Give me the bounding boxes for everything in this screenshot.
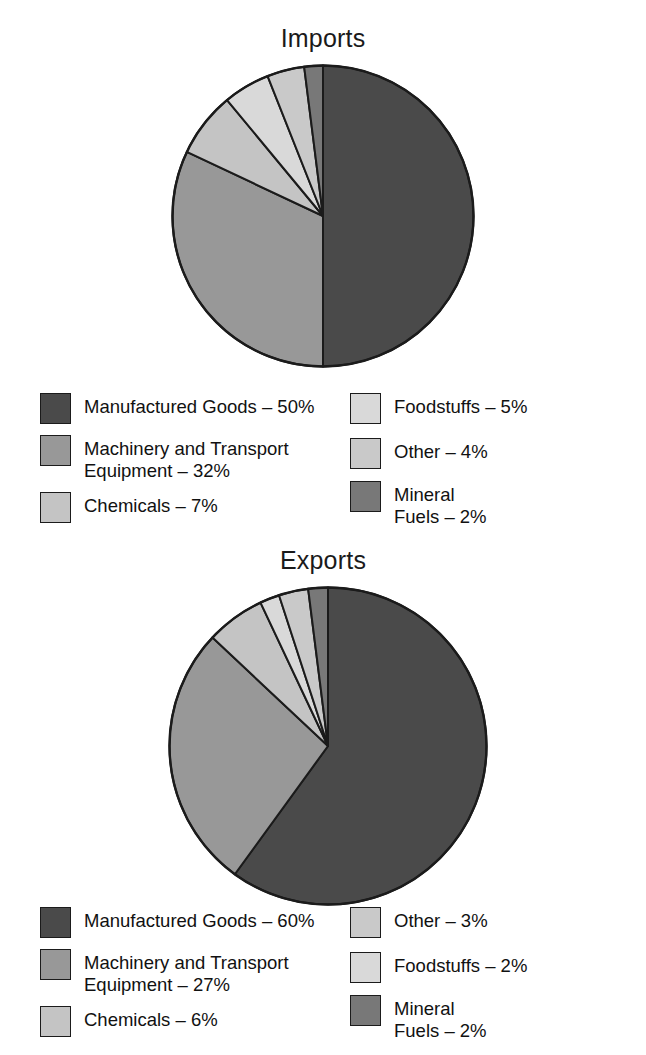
legend-label: Manufactured Goods – 50% xyxy=(84,393,314,418)
legend-swatch-manufactured-goods xyxy=(40,393,71,424)
legend-item: Manufactured Goods – 50% xyxy=(40,393,350,424)
legend-item: Chemicals – 7% xyxy=(40,492,350,523)
exports-chart-block: Exports xyxy=(0,548,646,907)
legend-label: Other – 3% xyxy=(394,907,488,932)
legend-label: Other – 4% xyxy=(394,438,488,463)
legend-swatch-foodstuffs xyxy=(350,393,381,424)
legend-swatch-machinery-and-transport-equipment xyxy=(40,949,71,980)
legend-item: Manufactured Goods – 60% xyxy=(40,907,350,938)
legend-label: Foodstuffs – 5% xyxy=(394,393,527,418)
exports-pie-wrap xyxy=(0,585,646,907)
legend-swatch-manufactured-goods xyxy=(40,907,71,938)
pie-slice-manufactured-goods xyxy=(323,66,473,367)
legend-item: Other – 4% xyxy=(350,438,606,469)
legend-swatch-mineral-fuels xyxy=(350,995,381,1026)
exports-legend-column-right: Other – 3% Foodstuffs – 2% Mineral Fuels… xyxy=(350,907,606,1042)
legend-swatch-machinery-and-transport-equipment xyxy=(40,435,71,466)
exports-pie-chart xyxy=(167,585,489,907)
imports-legend-column-left: Manufactured Goods – 50% Machinery and T… xyxy=(0,393,350,528)
legend-label: Mineral Fuels – 2% xyxy=(394,995,487,1042)
imports-title: Imports xyxy=(0,26,646,51)
exports-title: Exports xyxy=(0,548,646,573)
legend-label: Chemicals – 7% xyxy=(84,492,218,517)
legend-label: Machinery and Transport Equipment – 32% xyxy=(84,435,289,482)
legend-item: Foodstuffs – 5% xyxy=(350,393,606,424)
legend-swatch-mineral-fuels xyxy=(350,481,381,512)
legend-swatch-chemicals xyxy=(40,1006,71,1037)
legend-label: Foodstuffs – 2% xyxy=(394,952,527,977)
exports-legend: Manufactured Goods – 60% Machinery and T… xyxy=(0,907,646,1042)
imports-legend-column-right: Foodstuffs – 5% Other – 4% Mineral Fuels… xyxy=(350,393,606,528)
exports-legend-column-left: Manufactured Goods – 60% Machinery and T… xyxy=(0,907,350,1042)
legend-swatch-other xyxy=(350,438,381,469)
legend-swatch-foodstuffs xyxy=(350,952,381,983)
legend-item: Machinery and Transport Equipment – 27% xyxy=(40,949,350,996)
imports-pie-wrap xyxy=(0,63,646,369)
legend-swatch-other xyxy=(350,907,381,938)
legend-item: Machinery and Transport Equipment – 32% xyxy=(40,435,350,482)
legend-item: Mineral Fuels – 2% xyxy=(350,995,606,1042)
legend-label: Chemicals – 6% xyxy=(84,1006,218,1031)
imports-chart-block: Imports xyxy=(0,26,646,369)
legend-label: Mineral Fuels – 2% xyxy=(394,481,487,528)
legend-item: Mineral Fuels – 2% xyxy=(350,481,606,528)
imports-legend: Manufactured Goods – 50% Machinery and T… xyxy=(0,393,646,528)
legend-item: Other – 3% xyxy=(350,907,606,938)
legend-item: Foodstuffs – 2% xyxy=(350,952,606,983)
legend-label: Manufactured Goods – 60% xyxy=(84,907,314,932)
legend-swatch-chemicals xyxy=(40,492,71,523)
legend-label: Machinery and Transport Equipment – 27% xyxy=(84,949,289,996)
imports-pie-chart xyxy=(170,63,476,369)
legend-item: Chemicals – 6% xyxy=(40,1006,350,1037)
